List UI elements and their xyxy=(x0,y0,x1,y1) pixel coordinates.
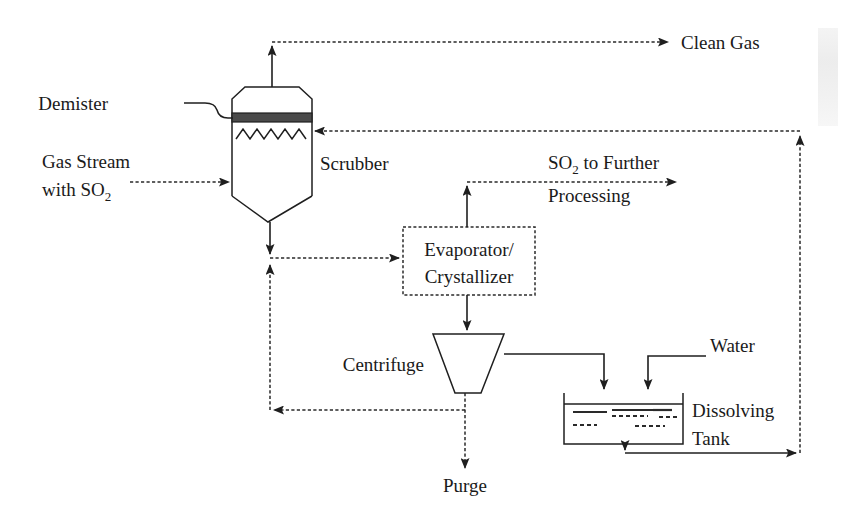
gas-stream-label-line1: Gas Stream xyxy=(42,151,130,172)
scrubber-label: Scrubber xyxy=(320,153,389,174)
so2-further-label-line1: SO2 to Further xyxy=(548,152,660,177)
so2-further-suffix: to Further xyxy=(579,152,660,173)
centrifuge-trapezoid xyxy=(433,334,504,393)
dissolving-tank-liquid-marks xyxy=(573,410,678,426)
clean-gas-label: Clean Gas xyxy=(681,32,760,53)
scrubber-vessel xyxy=(232,87,312,222)
so2-further-label-line2: Processing xyxy=(548,185,631,206)
dissolving-tank-shell xyxy=(564,393,683,444)
scan-edge-artifact xyxy=(818,28,838,126)
scrubber-cone-bottom xyxy=(232,196,312,222)
gas-stream-label-line2: with SO2 xyxy=(42,179,111,204)
so2-further-prefix: SO xyxy=(548,152,572,173)
evaporator-label-line1: Evaporator/ xyxy=(424,239,514,260)
gas-stream-label-subscript: 2 xyxy=(105,189,112,204)
flowsheet-canvas: Demister Scrubber Gas Stream with SO2 Cl… xyxy=(0,0,847,514)
demister-label: Demister xyxy=(38,93,108,114)
process-flow-diagram: Demister Scrubber Gas Stream with SO2 Cl… xyxy=(0,0,847,514)
spray-nozzles-icon xyxy=(236,129,306,139)
water-label: Water xyxy=(710,335,756,356)
stream-water-in xyxy=(648,356,706,389)
gas-stream-label-line2-text: with SO xyxy=(42,179,105,200)
dissolving-tank-label-line2: Tank xyxy=(692,428,730,449)
evaporator-label-line2: Crystallizer xyxy=(425,266,514,287)
purge-label: Purge xyxy=(443,475,487,496)
demister-leader-line xyxy=(184,103,233,118)
stream-cake-to-tank xyxy=(504,354,604,389)
dissolving-tank-label-line1: Dissolving xyxy=(692,400,775,421)
demister-band xyxy=(232,113,312,122)
centrifuge-unit xyxy=(433,334,504,393)
centrifuge-label: Centrifuge xyxy=(343,354,424,375)
dissolving-tank-unit xyxy=(564,393,683,444)
